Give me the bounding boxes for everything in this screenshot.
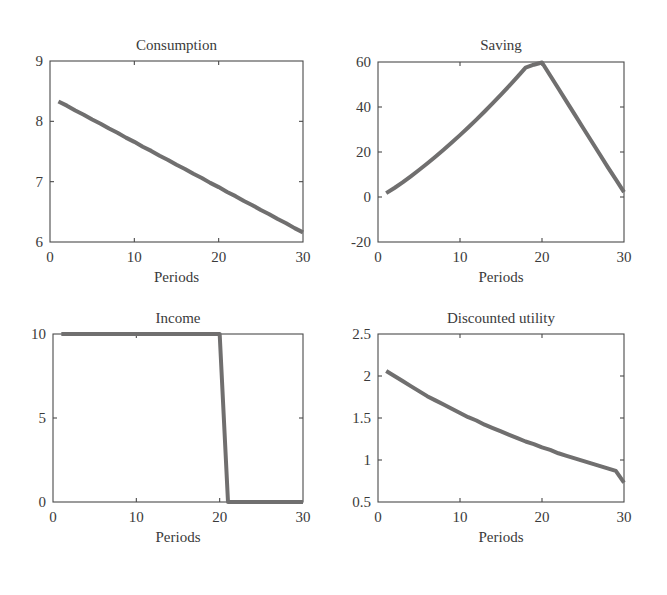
x-tick-label: 30 (296, 509, 311, 525)
y-tick-label: 1.5 (352, 410, 371, 426)
data-series-line (58, 101, 303, 232)
y-tick-label: -20 (351, 234, 371, 250)
x-tick-label: 10 (127, 249, 142, 265)
chart-panel-saving: Saving-2002040600102030Periods (333, 20, 667, 300)
x-tick-label: 30 (617, 249, 632, 265)
x-axis-label: Periods (154, 269, 199, 285)
y-tick-label: 10 (31, 326, 46, 342)
x-tick-label: 20 (211, 249, 226, 265)
figure-canvas: Consumption67890102030Periods Saving-200… (0, 0, 667, 595)
y-tick-label: 40 (356, 99, 371, 115)
y-tick-label: 1 (364, 452, 372, 468)
x-tick-label: 20 (535, 249, 550, 265)
x-tick-label: 10 (129, 509, 144, 525)
y-tick-label: 6 (36, 234, 44, 250)
y-tick-label: 8 (36, 113, 44, 129)
x-axis-label: Periods (479, 529, 524, 545)
y-tick-label: 9 (36, 53, 44, 69)
x-tick-label: 30 (296, 249, 311, 265)
x-tick-label: 30 (617, 509, 632, 525)
x-axis-label: Periods (479, 269, 524, 285)
chart-panel-income: Income05100102030Periods (0, 293, 334, 593)
y-tick-label: 0.5 (352, 494, 371, 510)
chart-svg: Income05100102030Periods (0, 293, 334, 593)
y-tick-label: 2 (364, 368, 372, 384)
chart-svg: Discounted utility0.511.522.50102030Peri… (333, 293, 667, 593)
x-tick-label: 0 (374, 509, 382, 525)
x-tick-label: 0 (49, 509, 57, 525)
x-tick-label: 20 (535, 509, 550, 525)
y-tick-label: 0 (39, 494, 47, 510)
chart-svg: Consumption67890102030Periods (0, 20, 334, 300)
data-series-line (386, 371, 624, 483)
chart-svg: Saving-2002040600102030Periods (333, 20, 667, 300)
x-tick-label: 0 (46, 249, 54, 265)
x-tick-label: 0 (374, 249, 382, 265)
data-series-line (61, 334, 303, 502)
y-tick-label: 2.5 (352, 326, 371, 342)
chart-title: Income (156, 310, 201, 326)
chart-panel-discounted-utility: Discounted utility0.511.522.50102030Peri… (333, 293, 667, 593)
axes-box (50, 61, 303, 242)
x-axis-label: Periods (156, 529, 201, 545)
y-tick-label: 20 (356, 144, 371, 160)
axes-box (53, 334, 303, 502)
y-tick-label: 5 (39, 410, 47, 426)
y-tick-label: 0 (364, 189, 372, 205)
y-tick-label: 60 (356, 54, 371, 70)
x-tick-label: 10 (453, 509, 468, 525)
chart-title: Saving (480, 37, 522, 53)
y-tick-label: 7 (36, 174, 44, 190)
axes-box (378, 62, 624, 242)
chart-title: Discounted utility (447, 310, 555, 326)
chart-panel-consumption: Consumption67890102030Periods (0, 20, 334, 300)
x-tick-label: 10 (453, 249, 468, 265)
data-series-line (386, 62, 624, 193)
axes-box (378, 334, 624, 502)
x-tick-label: 20 (212, 509, 227, 525)
chart-title: Consumption (136, 37, 217, 53)
